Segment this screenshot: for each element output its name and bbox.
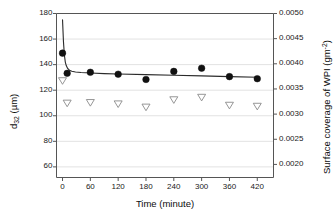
x-tick-label: 420 <box>241 183 273 191</box>
left-tick-label: 180 <box>11 9 53 17</box>
chart-figure: 6080100120140160180 0.00200.00250.00300.… <box>0 0 333 220</box>
right-tick-label: 0.0050 <box>279 9 325 17</box>
right-tick-label: 0.0040 <box>279 59 325 67</box>
marker-triangle <box>253 103 261 110</box>
y-axis-left-title: d32 (µm) <box>9 93 21 128</box>
left-tick-label: 80 <box>11 137 53 145</box>
marker-dot <box>171 68 178 75</box>
marker-dot <box>198 65 205 72</box>
fitted-curve <box>63 20 258 77</box>
marker-dot <box>64 70 71 77</box>
marker-dot <box>254 75 261 82</box>
right-tick-label: 0.0020 <box>279 160 325 168</box>
marker-triangle <box>198 94 206 101</box>
x-axis-title-text: Time (minute) <box>136 198 194 209</box>
y-right-title-close: ) <box>321 40 332 43</box>
left-tick-label: 120 <box>11 86 53 94</box>
y-left-title-unit: (µm) <box>8 93 19 115</box>
right-tick-label: 0.0045 <box>279 34 325 42</box>
surface-coverage-markers <box>59 78 262 111</box>
curve-path <box>63 20 258 77</box>
marker-triangle <box>63 100 71 107</box>
marker-triangle <box>170 97 178 104</box>
left-tick-label: 140 <box>11 60 53 68</box>
marker-dot <box>115 71 122 78</box>
marker-triangle <box>59 78 67 85</box>
y-left-title-subscript: 32 <box>13 116 20 124</box>
right-tick-label: 0.0030 <box>279 110 325 118</box>
marker-triangle <box>114 101 122 108</box>
y-axis-right-title: Surface coverage of WPI (gm-2) <box>322 40 332 174</box>
marker-dot <box>226 73 233 80</box>
x-axis-title: Time (minute) <box>105 199 225 209</box>
left-tick-label: 160 <box>11 35 53 43</box>
marker-dot <box>59 50 66 57</box>
marker-triangle <box>142 104 150 111</box>
axis-spines <box>57 14 274 178</box>
right-tick-label: 0.0025 <box>279 135 325 143</box>
marker-dot <box>143 76 150 83</box>
left-tick-label: 60 <box>11 162 53 170</box>
right-tick-label: 0.0035 <box>279 84 325 92</box>
marker-triangle <box>86 100 94 107</box>
marker-dot <box>87 69 94 76</box>
d32-markers <box>59 50 260 83</box>
y-right-title-main: Surface coverage of WPI (gm <box>321 49 332 174</box>
y-right-title-superscript: -2 <box>321 43 328 49</box>
marker-triangle <box>225 102 233 109</box>
